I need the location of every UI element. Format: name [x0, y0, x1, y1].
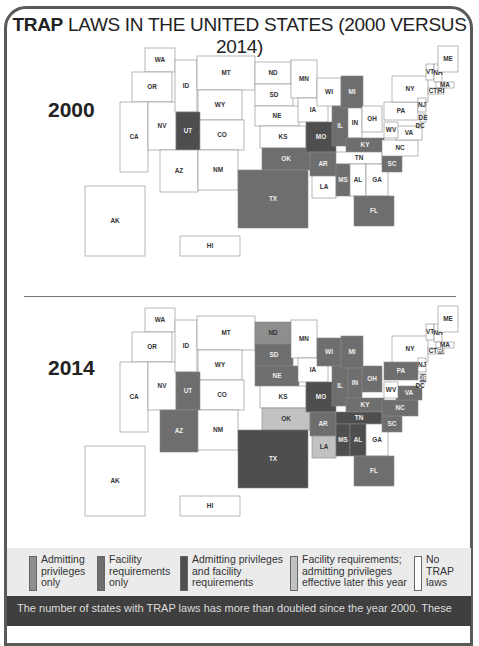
state-label: NV	[158, 382, 168, 389]
state-label: MI	[348, 348, 355, 355]
state-label: MT	[221, 69, 230, 76]
map-2000: WAORCANVIDMTWYUTCOAZNMNDSDNEKSOKTXMNIAMO…	[0, 36, 479, 298]
state-label: OK	[281, 155, 291, 162]
state-label: NE	[273, 372, 283, 379]
state-label: TN	[355, 414, 364, 421]
state-label: ME	[443, 55, 453, 62]
state-label: SD	[270, 91, 279, 98]
state-label: WA	[155, 56, 166, 63]
state-label: FL	[370, 467, 378, 474]
state-label: ID	[183, 342, 190, 349]
state-label: WV	[386, 386, 397, 393]
state-label: VA	[405, 389, 414, 396]
state-label: ID	[183, 82, 190, 89]
state-label: SC	[388, 420, 397, 427]
state-label: LA	[320, 443, 329, 450]
state-label: IA	[310, 106, 317, 113]
legend-swatch	[290, 556, 298, 591]
state-label: MO	[316, 393, 326, 400]
legend-swatch	[180, 556, 188, 591]
state-label: OK	[281, 415, 291, 422]
state-label: KS	[279, 393, 289, 400]
state-label: AR	[318, 160, 328, 167]
state-label: MN	[299, 75, 309, 82]
state-label: AL	[354, 176, 363, 183]
state-label: RI	[438, 347, 445, 354]
map-2014: WAORCANVIDMTWYUTCOAZNMNDSDNEKSOKTXMNIAMO…	[0, 296, 479, 558]
state-label: AL	[354, 436, 363, 443]
state-label: IL	[337, 122, 343, 129]
state-label: SD	[270, 351, 279, 358]
state-label: NY	[406, 85, 416, 92]
state-label: HI	[207, 502, 214, 509]
state-label: ND	[268, 69, 278, 76]
state-label: CA	[129, 393, 139, 400]
state-label: NC	[395, 144, 405, 151]
state-label: OH	[367, 375, 377, 382]
state-label: WI	[325, 88, 333, 95]
caption: The number of states with TRAP laws has …	[7, 596, 471, 626]
state-label: OR	[147, 83, 157, 90]
state-label: PA	[397, 367, 406, 374]
state-label: FL	[370, 207, 378, 214]
state-label: MI	[348, 88, 355, 95]
state-label: WI	[325, 348, 333, 355]
state-label: NE	[273, 112, 283, 119]
state-label: NJ	[418, 101, 427, 108]
legend-item-none: No TRAP laws	[414, 554, 460, 591]
legend-swatch	[97, 556, 105, 591]
state-label: MS	[338, 176, 348, 183]
legend-swatch	[29, 556, 37, 591]
state-label: UT	[184, 127, 193, 134]
state-label: NC	[395, 404, 405, 411]
state-label: NY	[406, 345, 416, 352]
state-label: KS	[279, 133, 289, 140]
state-label: DC	[415, 122, 425, 129]
state-label: WA	[155, 316, 166, 323]
state-label: KY	[361, 141, 371, 148]
state-label: UT	[184, 387, 193, 394]
state-label: ND	[268, 329, 278, 336]
state-label: DE	[419, 114, 429, 121]
state-label: LA	[320, 183, 329, 190]
state-label: MN	[299, 335, 309, 342]
state-label: DC	[415, 382, 425, 389]
state-label: KY	[361, 401, 371, 408]
legend-item-admitting-only: Admitting privileges only	[29, 554, 89, 591]
state-label: NJ	[418, 361, 427, 368]
state-label: HI	[207, 242, 214, 249]
state-label: AR	[318, 420, 328, 427]
legend: Admitting privileges only Facility requi…	[7, 548, 471, 596]
state-label: ME	[443, 315, 453, 322]
state-label: OR	[147, 343, 157, 350]
legend-item-facility-admitting-later: Facility requirements; admitting privile…	[290, 554, 414, 591]
legend-swatch	[414, 556, 422, 591]
state-label: AK	[110, 477, 120, 484]
state-label: NM	[213, 166, 223, 173]
state-label: VA	[405, 129, 414, 136]
state-label: RI	[438, 87, 445, 94]
state-label: IA	[310, 366, 317, 373]
state-label: IL	[337, 382, 343, 389]
state-label: CO	[217, 391, 227, 398]
state-label: IN	[352, 379, 359, 386]
state-label: WY	[215, 361, 226, 368]
state-label: AK	[110, 217, 120, 224]
state-label: DE	[419, 374, 429, 381]
state-label: TX	[269, 455, 278, 462]
state-label: TN	[355, 154, 364, 161]
state-label: PA	[397, 107, 406, 114]
state-label: WV	[386, 126, 397, 133]
state-label: CT	[429, 347, 438, 354]
state-label: MO	[316, 133, 326, 140]
state-label: IN	[352, 119, 359, 126]
state-label: GA	[372, 176, 382, 183]
state-label: CO	[217, 131, 227, 138]
state-label: AZ	[175, 427, 184, 434]
state-label: MS	[338, 436, 348, 443]
legend-item-both: Admitting privileges and facility requir…	[180, 554, 287, 591]
state-label: AZ	[175, 167, 184, 174]
state-label: CA	[129, 133, 139, 140]
state-label: SC	[388, 160, 397, 167]
state-label: MT	[221, 329, 230, 336]
